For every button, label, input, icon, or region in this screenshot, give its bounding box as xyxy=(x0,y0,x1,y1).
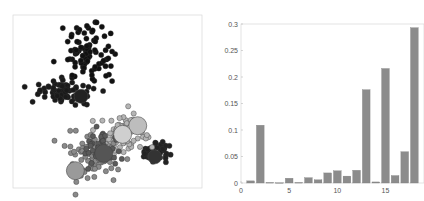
scatter-point xyxy=(42,94,47,99)
scatter-point xyxy=(142,151,147,156)
scatter-point xyxy=(90,134,95,139)
scatter-point xyxy=(80,69,85,74)
scatter-point xyxy=(92,166,97,171)
bar-8 xyxy=(314,180,322,183)
scatter-point xyxy=(101,88,106,93)
scatter-point xyxy=(63,95,68,100)
scatter-point xyxy=(70,80,75,85)
scatter-point xyxy=(60,78,65,83)
bar-7 xyxy=(305,178,313,183)
scatter-point xyxy=(60,26,65,31)
scatter-point xyxy=(160,139,165,144)
scatter-point xyxy=(103,73,108,78)
bar-3 xyxy=(266,182,274,183)
scatter-point xyxy=(89,161,94,166)
scatter-point xyxy=(119,156,124,161)
bar-11 xyxy=(343,176,351,183)
centroid-marker xyxy=(95,144,113,162)
scatter-point xyxy=(86,166,91,171)
scatter-point xyxy=(64,88,69,93)
scatter-point xyxy=(73,192,78,197)
bar-10 xyxy=(333,171,341,183)
scatter-point xyxy=(110,49,115,54)
scatter-point xyxy=(163,160,168,165)
centroid-marker xyxy=(66,162,84,180)
y-tick-label: 0.1 xyxy=(228,127,238,134)
scatter-point xyxy=(94,20,99,25)
bar-2 xyxy=(256,125,264,183)
scatter-point xyxy=(121,150,126,155)
scatter-point xyxy=(99,52,104,57)
y-tick-label: 0.25 xyxy=(224,47,238,54)
scatter-point xyxy=(81,83,86,88)
scatter-point xyxy=(100,118,105,123)
scatter-point xyxy=(92,174,97,179)
scatter-point xyxy=(90,118,95,123)
bar-17 xyxy=(401,152,409,183)
scatter-point xyxy=(103,48,108,53)
scatter-point xyxy=(70,73,75,78)
scatter-point xyxy=(89,73,94,78)
scatter-point xyxy=(56,88,61,93)
scatter-point xyxy=(108,131,113,136)
scatter-point xyxy=(150,145,155,150)
scatter-point xyxy=(74,179,79,184)
bar-frame xyxy=(241,24,424,183)
y-tick-label: 0.2 xyxy=(228,74,238,81)
scatter-point xyxy=(111,178,116,183)
x-tick-label: 5 xyxy=(287,187,291,194)
scatter-point xyxy=(91,86,96,91)
scatter-point xyxy=(51,79,56,84)
scatter-point xyxy=(51,59,56,64)
scatter-point xyxy=(60,84,65,89)
scatter-point xyxy=(80,53,85,58)
scatter-point xyxy=(82,30,87,35)
scatter-point xyxy=(137,144,142,149)
scatter-point xyxy=(100,138,105,143)
scatter-point xyxy=(68,128,73,133)
x-tick-label: 15 xyxy=(382,187,390,194)
scatter-point xyxy=(77,27,82,32)
scatter-point xyxy=(85,58,90,63)
bar-4 xyxy=(276,183,284,184)
scatter-point xyxy=(109,118,114,123)
scatter-point xyxy=(73,102,78,107)
scatter-point xyxy=(85,176,90,181)
scatter-point xyxy=(109,166,114,171)
bar-12 xyxy=(353,170,361,183)
scatter-point xyxy=(84,23,89,28)
y-axis-ticks: 00.050.10.150.20.250.3 xyxy=(224,21,243,187)
y-tick-label: 0.15 xyxy=(224,100,238,107)
centroid-marker xyxy=(148,150,162,164)
scatter-point xyxy=(36,82,41,87)
bar-5 xyxy=(285,178,293,183)
scatter-point xyxy=(93,39,98,44)
scatter-point xyxy=(125,157,130,162)
scatter-point xyxy=(108,31,113,36)
bar-6 xyxy=(295,182,303,183)
scatter-point xyxy=(65,39,70,44)
bar-9 xyxy=(324,173,332,183)
scatter-point xyxy=(68,144,73,149)
scatter-point xyxy=(46,84,51,89)
scatter-point xyxy=(84,43,89,48)
scatter-point xyxy=(87,49,92,54)
scatter-point xyxy=(113,161,118,166)
scatter-point xyxy=(86,84,91,89)
scatter-point xyxy=(92,47,97,52)
y-tick-label: 0.05 xyxy=(224,153,238,160)
scatter-point xyxy=(103,133,108,138)
scatter-point xyxy=(73,64,78,69)
scatter-point xyxy=(106,56,111,61)
scatter-point xyxy=(131,111,136,116)
scatter-point xyxy=(131,138,136,143)
bar-15 xyxy=(382,69,390,183)
scatter-point xyxy=(116,167,121,172)
bar-13 xyxy=(362,90,370,183)
scatter-point xyxy=(69,34,74,39)
scatter-point xyxy=(168,152,173,157)
scatter-plot xyxy=(0,0,215,201)
scatter-point xyxy=(101,58,106,63)
scatter-point xyxy=(74,48,79,53)
scatter-point xyxy=(30,99,35,104)
